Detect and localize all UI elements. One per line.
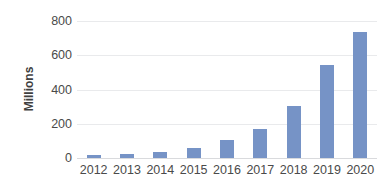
x-axis-tick-label: 2017 <box>246 163 274 178</box>
x-axis-tick-label: 2016 <box>213 163 241 178</box>
bar <box>187 148 201 158</box>
x-axis-tick-label: 2012 <box>80 163 108 178</box>
bar <box>120 154 134 158</box>
bar <box>153 152 167 158</box>
y-axis-tick-label: 800 <box>38 15 72 28</box>
bar-chart-figure: Millions 0200400600800 20122013201420152… <box>0 0 389 195</box>
bar <box>320 65 334 158</box>
y-axis-tick-labels: 0200400600800 <box>38 0 72 195</box>
y-axis-tick-label: 0 <box>38 152 72 165</box>
bar <box>253 129 267 158</box>
y-axis-tick-label: 400 <box>38 83 72 96</box>
bar <box>220 140 234 158</box>
y-axis-title: Millions <box>22 36 36 142</box>
x-axis-line <box>77 158 377 159</box>
x-axis-tick-label: 2020 <box>346 163 374 178</box>
bar-series <box>77 21 377 158</box>
x-axis-tick-label: 2014 <box>146 163 174 178</box>
x-axis-tick-labels: 201220132014201520162017201820192020 <box>77 163 377 183</box>
bar <box>353 32 367 158</box>
y-axis-tick-label: 600 <box>38 49 72 62</box>
y-axis-tick-label: 200 <box>38 117 72 130</box>
x-axis-tick-label: 2013 <box>113 163 141 178</box>
x-axis-tick-label: 2019 <box>313 163 341 178</box>
bar <box>87 155 101 158</box>
x-axis-tick-label: 2018 <box>280 163 308 178</box>
x-axis-tick-label: 2015 <box>180 163 208 178</box>
y-axis-title-label: Millions <box>22 67 36 112</box>
bar <box>287 106 301 158</box>
